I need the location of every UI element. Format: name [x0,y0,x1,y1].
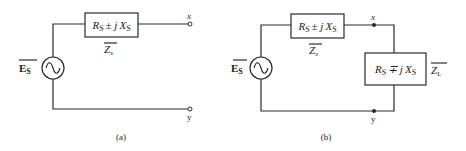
load-impedance-name-b: ZL [431,64,441,78]
panel-a: RS± jXS Zs ES x y (a) [19,11,192,142]
terminal-x-a [188,22,192,26]
source-label-a: ES [19,62,31,76]
node-y-label-b: y [371,114,376,124]
caption-b: (b) [321,132,332,142]
panel-b: RS± jXS Zs RS∓ jXS ZL ES x y (b) [231,12,447,142]
circuit-diagram: RS± jXS Zs ES x y (a) RS± jXS [0,0,466,151]
wire-top-left-b [261,25,291,57]
load-impedance-expr-b: RS∓ jXS [374,63,416,77]
series-impedance-name-b: Zs [309,44,318,58]
node-y-b [372,109,376,113]
source-label-b: ES [231,62,243,76]
terminal-x-label-a: x [186,11,191,21]
terminal-y-label-a: y [187,112,192,122]
terminal-y-a [188,107,192,111]
wire-top-right-b [344,25,394,53]
node-x-label-b: x [370,12,375,22]
wire-top-left-a [53,24,85,57]
caption-a: (a) [116,132,126,142]
wire-bottom-a [53,79,188,109]
series-impedance-expr-b: RS± jXS [297,20,336,34]
series-impedance-name-a: Zs [104,43,113,57]
series-impedance-expr-a: RS± jXS [91,19,130,33]
node-x-b [372,23,376,27]
